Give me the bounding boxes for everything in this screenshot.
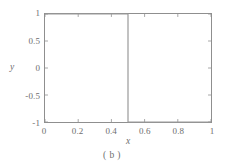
y-tick-label: -1: [32, 119, 40, 128]
plot-canvas: [45, 14, 211, 122]
y-tick-label: -0.5: [25, 91, 40, 100]
x-axis-title: x: [126, 136, 130, 146]
y-tick-label: 1: [35, 9, 40, 18]
x-tick-label: 0.6: [139, 127, 151, 136]
y-axis-title: y: [10, 62, 14, 72]
x-tick-label: 0.8: [173, 127, 185, 136]
x-tick-label: 1: [210, 127, 215, 136]
x-tick-label: 0.4: [105, 127, 117, 136]
figure-caption: ( b ): [103, 150, 121, 160]
x-tick-label: 0: [42, 127, 47, 136]
data-series-line: [45, 14, 211, 122]
y-tick-label: 0.5: [28, 36, 40, 45]
data-series-group: [45, 14, 211, 122]
x-tick-label: 0.2: [72, 127, 84, 136]
plot-area: [44, 13, 212, 123]
y-tick-label: 0: [35, 64, 40, 73]
figure-panel: -1-0.500.51 00.20.40.60.81 y x ( b ): [0, 0, 225, 168]
